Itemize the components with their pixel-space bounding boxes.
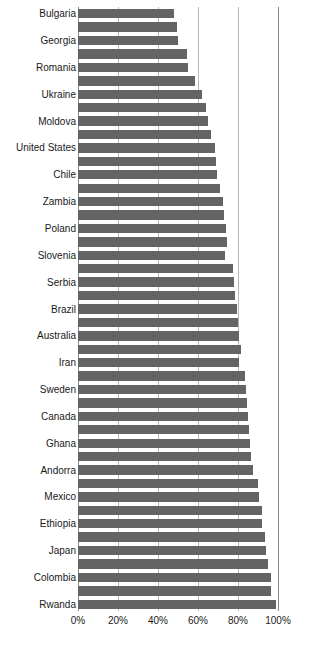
bar [78,157,216,166]
bar [78,398,247,407]
bar [78,237,227,246]
bar-row [78,157,278,166]
x-tick-label: 60% [188,615,208,627]
bar [78,573,271,582]
x-tick-label: 80% [228,615,248,627]
x-tick-label: 0% [71,615,85,627]
bar-row [78,264,278,273]
bar-row [78,210,278,219]
bar [78,116,208,125]
bar-row [78,506,278,515]
category-label: Japan [0,545,76,556]
bar-row [78,479,278,488]
category-label: Georgia [0,35,76,46]
category-label: Brazil [0,304,76,315]
category-label: Zambia [0,196,76,207]
category-label: Sweden [0,384,76,395]
category-label: Andorra [0,465,76,476]
bar-row [78,90,278,99]
bar-row [78,103,278,112]
bar-row [78,452,278,461]
bar [78,291,235,300]
bar-row [78,22,278,31]
category-label: Serbia [0,277,76,288]
bar-row [78,385,278,394]
bar [78,184,220,193]
bars-container [78,7,278,611]
bar [78,465,253,474]
bar [78,251,225,260]
bar-row [78,412,278,421]
x-tick-label: 40% [148,615,168,627]
bar [78,600,276,609]
bar [78,143,215,152]
category-label: Canada [0,411,76,422]
bar-row [78,532,278,541]
bar-row [78,76,278,85]
bar-row [78,277,278,286]
bar-row [78,371,278,380]
bar-row [78,492,278,501]
bar [78,371,245,380]
category-axis-labels: BulgariaGeorgiaRomaniaUkraineMoldovaUnit… [0,0,76,659]
bar-row [78,130,278,139]
bar-row [78,49,278,58]
bar-row [78,358,278,367]
bar [78,9,174,18]
bar-row [78,197,278,206]
bar-row [78,398,278,407]
bar [78,532,265,541]
bar-row [78,251,278,260]
bar [78,224,226,233]
category-label: Slovenia [0,250,76,261]
bar [78,479,258,488]
category-label: United States [0,142,76,153]
category-label: Moldova [0,116,76,127]
bar [78,439,250,448]
bar-chart: BulgariaGeorgiaRomaniaUkraineMoldovaUnit… [0,0,310,659]
category-label: Bulgaria [0,8,76,19]
bar-row [78,425,278,434]
bar [78,452,251,461]
bar [78,318,238,327]
plot-area [78,7,278,611]
category-label: Ethiopia [0,518,76,529]
bar [78,358,239,367]
bar [78,412,248,421]
bar-row [78,439,278,448]
bar [78,197,223,206]
bar [78,492,259,501]
category-label: Australia [0,330,76,341]
bar-row [78,63,278,72]
bar-row [78,465,278,474]
x-axis-tick-labels: 0%20%40%60%80%100% [78,615,278,635]
bar [78,519,262,528]
bar-row [78,170,278,179]
bar [78,304,237,313]
bar-row [78,546,278,555]
bar [78,210,224,219]
bar [78,385,246,394]
bar-row [78,116,278,125]
bar [78,277,234,286]
bar-row [78,331,278,340]
bar-row [78,345,278,354]
bar [78,130,211,139]
bar-row [78,291,278,300]
bar [78,76,195,85]
bar [78,559,268,568]
bar-row [78,586,278,595]
bar [78,264,233,273]
bar-row [78,318,278,327]
bar-row [78,237,278,246]
bar-row [78,184,278,193]
category-label: Ghana [0,438,76,449]
x-tick-label: 100% [265,615,291,627]
bar-row [78,224,278,233]
bar-row [78,559,278,568]
bar [78,586,271,595]
gridline-100pct [278,7,279,611]
bar [78,331,239,340]
bar [78,170,217,179]
category-label: Romania [0,62,76,73]
